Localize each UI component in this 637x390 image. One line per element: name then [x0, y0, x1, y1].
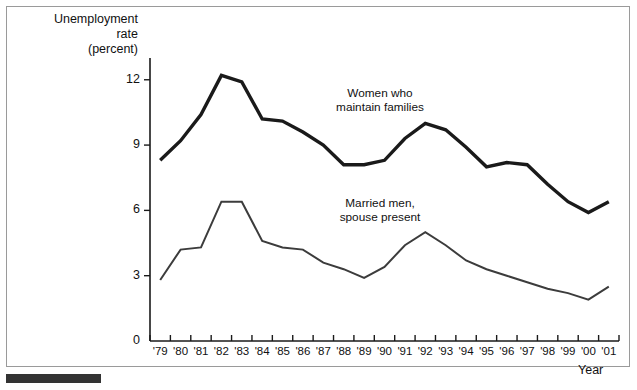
axis-ticks — [144, 80, 619, 341]
line-series-women-who-maintain-families — [160, 75, 609, 212]
y-tick-label: 0 — [114, 333, 140, 347]
y-tick-label: 9 — [114, 137, 140, 151]
chart-plot-area — [0, 0, 637, 390]
y-tick-label: 3 — [114, 268, 140, 282]
x-axis-title: Year — [578, 363, 603, 377]
y-tick-label: 12 — [114, 72, 140, 86]
chart-screenshot: Unemployment rate (percent) Women who ma… — [0, 0, 637, 390]
x-tick-label: '01 — [596, 345, 622, 357]
line-series-married-men-spouse-present — [160, 202, 609, 300]
y-tick-label: 6 — [114, 202, 140, 216]
